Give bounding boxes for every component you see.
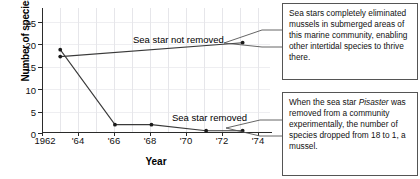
series-annotation-removed: Sea star removed xyxy=(172,112,247,123)
callout-top-text: Sea stars completely eliminated mussels … xyxy=(289,8,407,62)
callout-box-top: Sea stars completely eliminated mussels … xyxy=(282,3,418,80)
callout-box-bottom: When the sea star Pisaster was removed f… xyxy=(282,92,418,176)
data-point xyxy=(204,129,208,133)
data-point xyxy=(58,48,62,52)
chart-figure: Number of species 25 20 15 10 5 0 xyxy=(0,0,420,179)
data-point xyxy=(241,129,245,133)
series-canvas xyxy=(0,0,272,179)
data-point xyxy=(241,41,245,45)
data-point xyxy=(58,55,62,59)
series-annotation-not-removed: Sea star not removed xyxy=(133,34,224,45)
callout-bottom-species-name: Pisaster xyxy=(359,97,389,107)
data-point xyxy=(150,123,154,127)
callout-bottom-text-part1: When the sea star xyxy=(289,97,359,107)
data-point xyxy=(113,123,117,127)
chart-plot-region: Number of species 25 20 15 10 5 0 xyxy=(0,0,272,179)
